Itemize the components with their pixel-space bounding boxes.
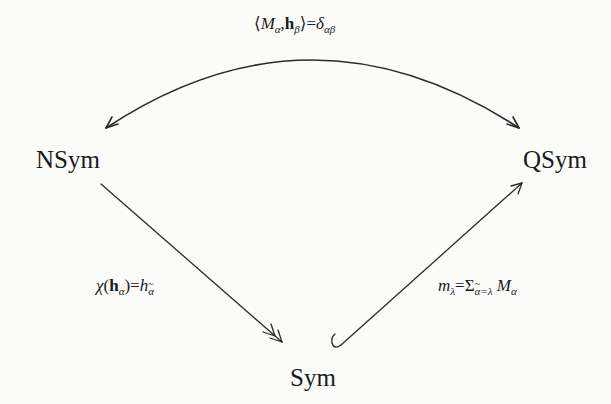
node-qsym: QSym <box>523 147 587 172</box>
node-sym: Sym <box>290 365 336 390</box>
delta-symbol: δ <box>316 14 324 33</box>
h-symbol: h <box>140 276 149 295</box>
M-symbol: M <box>497 276 511 295</box>
equals: = <box>455 276 465 295</box>
alpha-beta-subscript: αβ <box>324 23 335 35</box>
commutative-diagram: ⟨Mα,hβ⟩=δαβ NSym QSym Sym χ(hα)=hα mλ=Σα… <box>0 0 611 404</box>
close-paren-equals: )= <box>124 276 139 295</box>
langle: ⟨ <box>254 14 261 33</box>
m-symbol: m <box>438 276 450 295</box>
inclusion-arrow <box>332 183 522 347</box>
h-bold-symbol: h <box>285 14 294 33</box>
node-nsym: NSym <box>36 147 100 172</box>
rangle-equals: ⟩= <box>300 14 316 33</box>
M-symbol: M <box>261 14 275 33</box>
diagram-edges <box>0 0 611 404</box>
h-bold-symbol: h <box>109 276 118 295</box>
projection-arrow <box>101 184 282 342</box>
inclusion-label: mλ=Σα=λ Mα <box>438 277 517 294</box>
duality-label: ⟨Mα,hβ⟩=δαβ <box>254 15 335 32</box>
sigma-symbol: Σ <box>465 276 475 295</box>
duality-arrow <box>106 60 519 128</box>
alpha-subscript: α <box>511 285 517 297</box>
projection-label: χ(hα)=hα <box>96 277 154 294</box>
sum-equals-lambda: =λ <box>480 285 492 297</box>
